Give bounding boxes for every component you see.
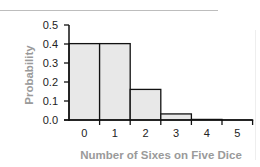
bar-1 [100,44,131,120]
x-axis-title: Number of Sixes on Five Dice [80,149,242,161]
y-tick-label: 0.1 [43,95,58,107]
x-tick-label: 2 [142,127,148,139]
x-tick-label: 5 [234,127,240,139]
x-tick-label: 0 [81,127,87,139]
y-axis-title: Probability [23,45,35,105]
y-tick-label: 0.4 [43,38,58,50]
bars [69,44,253,120]
histogram-chart: 0.00.10.20.30.40.5 012345 Probability Nu… [0,0,260,167]
x-axis: 012345 [64,120,253,139]
y-tick-label: 0.0 [43,114,58,126]
x-tick-label: 1 [112,127,118,139]
bar-2 [130,89,161,120]
y-tick-label: 0.5 [43,19,58,31]
x-tick-label: 4 [204,127,210,139]
bar-3 [161,114,192,120]
y-tick-label: 0.2 [43,76,58,88]
y-tick-label: 0.3 [43,57,58,69]
y-axis: 0.00.10.20.30.40.5 [43,19,69,126]
bar-0 [69,44,100,120]
x-tick-label: 3 [173,127,179,139]
